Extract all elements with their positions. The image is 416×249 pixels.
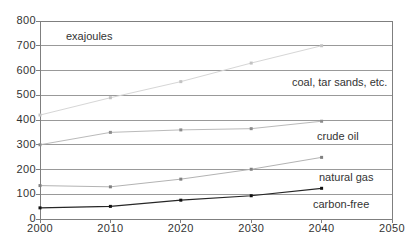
data-point-marker xyxy=(39,114,42,117)
data-point-marker xyxy=(250,168,253,171)
data-point-marker xyxy=(109,96,112,99)
data-point-marker xyxy=(179,178,182,181)
data-point-marker xyxy=(39,206,42,209)
y-tick-label: 800 xyxy=(0,14,36,27)
data-point-marker xyxy=(179,199,182,202)
data-point-marker xyxy=(250,127,253,130)
x-tick-label: 2050 xyxy=(372,222,412,235)
data-point-marker xyxy=(320,120,323,123)
x-tick-label: 2010 xyxy=(90,222,130,235)
y-tick-label: 700 xyxy=(0,39,36,52)
y-tick-label: 400 xyxy=(0,113,36,126)
y-tick-label: 500 xyxy=(0,88,36,101)
y-tick-label: 200 xyxy=(0,163,36,176)
data-point-marker xyxy=(320,187,323,190)
x-tick-label: 2030 xyxy=(231,222,271,235)
data-point-marker xyxy=(109,131,112,134)
data-point-marker xyxy=(179,80,182,83)
series-label-coal-tar-sands: coal, tar sands, etc. xyxy=(292,76,387,88)
series-line xyxy=(40,188,322,208)
series-line xyxy=(40,157,322,186)
y-tick-label: 100 xyxy=(0,187,36,200)
x-tick-label: 2040 xyxy=(302,222,342,235)
series-line xyxy=(40,121,322,145)
data-point-marker xyxy=(39,184,42,187)
x-tick-label: 2000 xyxy=(20,222,60,235)
series-label-natural-gas: natural gas xyxy=(319,171,373,183)
data-point-marker xyxy=(250,194,253,197)
data-point-marker xyxy=(179,128,182,131)
x-tick-label: 2020 xyxy=(161,222,201,235)
series-label-carbon-free: carbon-free xyxy=(313,198,369,210)
data-point-marker xyxy=(320,156,323,159)
data-point-marker xyxy=(320,44,323,47)
series-label-crude-oil: crude oil xyxy=(317,130,359,142)
data-point-marker xyxy=(109,205,112,208)
data-point-marker xyxy=(109,185,112,188)
energy-projection-chart: exajoules coal, tar sands, etc. crude oi… xyxy=(0,0,416,249)
data-point-marker xyxy=(250,62,253,65)
y-axis-unit-label: exajoules xyxy=(66,30,112,42)
data-point-marker xyxy=(39,143,42,146)
chart-plot-area xyxy=(0,0,416,249)
y-tick-label: 600 xyxy=(0,64,36,77)
y-tick-label: 300 xyxy=(0,138,36,151)
